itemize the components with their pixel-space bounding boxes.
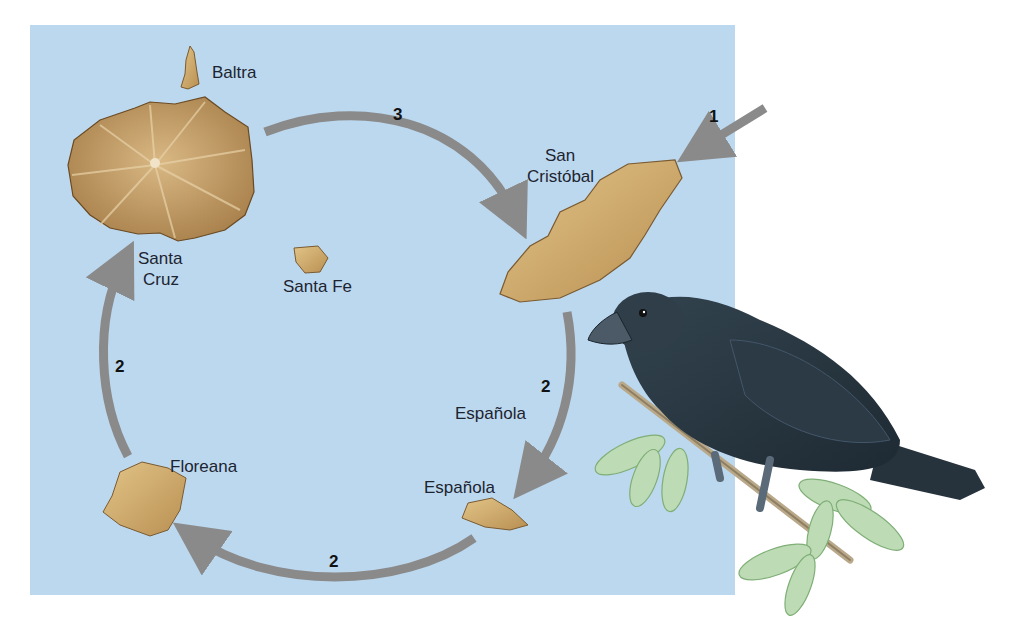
step-number-2-left: 2 [115,357,124,377]
label-santa-cruz: Santa Cruz [138,248,182,290]
step-number-1: 1 [709,107,718,127]
label-santa-fe: Santa Fe [283,276,352,297]
label-san-cristobal-line2: Cristóbal [527,166,593,187]
label-san-cristobal: San Cristóbal [527,145,593,187]
diagram-canvas: Baltra Santa Cruz Santa Fe San Cristóbal… [0,0,1011,621]
label-espanola-route: Española [455,403,526,424]
label-san-cristobal-line1: San [527,145,593,166]
step-number-2-bottom: 2 [329,552,338,572]
island-baltra [181,46,199,89]
island-santa-cruz [68,97,254,241]
label-santa-cruz-line2: Cruz [138,269,182,290]
label-floreana: Floreana [170,456,237,477]
arrow-3 [265,116,515,215]
label-espanola: Española [424,477,495,498]
diagram-art [0,0,1011,621]
step-number-3: 3 [393,105,402,125]
finch-illustration [588,292,985,619]
step-number-2-right: 2 [541,377,550,397]
island-espanola [462,498,528,530]
island-santa-fe [294,246,328,273]
label-baltra: Baltra [212,62,256,83]
arrow-2-right [530,312,571,478]
label-santa-cruz-line1: Santa [138,248,182,269]
